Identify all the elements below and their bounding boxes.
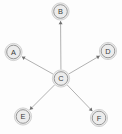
node-a-circle xyxy=(5,43,22,60)
node-c[interactable]: C xyxy=(52,70,69,87)
edge-line-c-f xyxy=(67,85,92,111)
arrow-head-b xyxy=(59,21,63,24)
node-d[interactable]: D xyxy=(99,42,116,59)
edge-line-c-e xyxy=(30,85,55,110)
graph-svg: A B C D E xyxy=(0,0,122,134)
node-b-circle xyxy=(52,3,69,20)
edge-c-to-a[interactable] xyxy=(22,56,53,74)
edge-c-to-f[interactable] xyxy=(67,85,92,111)
edge-line-c-a xyxy=(22,57,53,74)
diagram-canvas: A B C D E xyxy=(0,0,122,134)
node-e[interactable]: E xyxy=(14,108,31,125)
edge-layer xyxy=(22,21,100,111)
edge-line-c-d xyxy=(69,56,100,74)
edge-c-to-b[interactable] xyxy=(59,21,63,70)
node-c-circle xyxy=(52,70,69,87)
node-f-circle xyxy=(90,109,107,126)
node-b[interactable]: B xyxy=(52,3,69,20)
node-f[interactable]: F xyxy=(90,109,107,126)
edge-c-to-d[interactable] xyxy=(69,56,100,74)
node-d-circle xyxy=(99,42,116,59)
node-e-circle xyxy=(14,108,31,125)
node-a[interactable]: A xyxy=(5,43,22,60)
edge-c-to-e[interactable] xyxy=(30,85,55,110)
